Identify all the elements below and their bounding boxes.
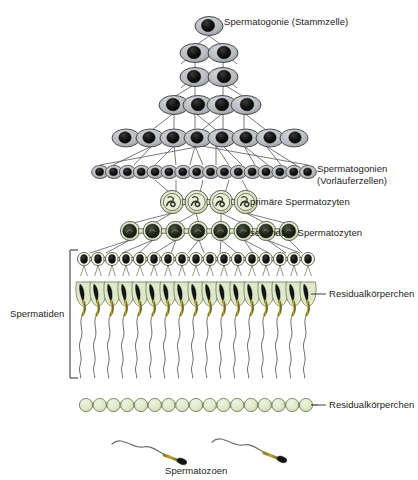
cell-nucleus — [236, 224, 250, 238]
spermatozoa-row — [112, 439, 288, 466]
spermatid-midpiece — [167, 301, 169, 315]
spermatogenesis-diagram: Spermatogonie (Stammzelle) Spermatogonie… — [0, 0, 418, 480]
cell-nucleus — [179, 168, 187, 176]
spermatid-tail — [107, 315, 110, 378]
spermatid-tail — [135, 315, 138, 378]
cell-spermatogonium — [208, 68, 238, 87]
spermatid-midpiece — [83, 301, 85, 315]
cytoplasmic-stalk — [294, 266, 298, 276]
spermatid-tail — [275, 315, 278, 378]
cell-nucleus — [137, 255, 144, 264]
cytoplasmic-stalk — [196, 266, 200, 276]
label-primary-spermatocytes: primäre Spermatozyten — [250, 196, 350, 208]
spermatiden-bracket — [70, 250, 78, 378]
spermatozoon-midpiece — [264, 453, 278, 459]
cell-nucleus — [168, 224, 182, 238]
cell-nucleus — [234, 168, 242, 176]
label-secondary-spermatocytes: sekundäre Spermatozyten — [250, 227, 362, 239]
residual-body — [231, 398, 244, 411]
residual-body — [286, 398, 299, 411]
spermatid-midpiece — [279, 301, 281, 315]
residual-body — [107, 398, 120, 411]
spermatid-midpiece — [111, 301, 113, 315]
label-residual-bodies-lower: Residualkörperchen — [329, 399, 414, 411]
cytoplasmic-stalk — [179, 266, 183, 276]
cell-nucleus — [96, 168, 104, 176]
cell-nucleus — [151, 168, 159, 176]
cytoplasmic-stalk — [98, 266, 102, 276]
cytoplasmic-stalk — [84, 266, 88, 276]
spermatid-tail — [233, 315, 236, 378]
spermatid-tail — [177, 315, 180, 378]
residual-body — [93, 398, 106, 411]
round-spermatid-row — [77, 252, 314, 265]
residual-body — [217, 398, 230, 411]
cytoplasmic-stalk — [151, 266, 155, 276]
residual-body — [244, 398, 257, 411]
cytoplasmic-stalk — [168, 266, 172, 276]
cell-nucleus — [81, 255, 88, 264]
cell-nucleus — [151, 255, 158, 264]
cytoplasmic-stalk — [235, 266, 239, 276]
cytoplasmic-stalk — [210, 266, 214, 276]
cytoplasmic-stalk — [137, 266, 141, 276]
spermatid-tail — [191, 315, 194, 378]
cell-nucleus — [214, 224, 228, 238]
cell-nucleus — [109, 168, 117, 176]
cell-nucleus — [179, 255, 186, 264]
residual-body — [134, 398, 147, 411]
spermatozoon-tail — [212, 439, 270, 455]
cell-nucleus — [304, 168, 312, 176]
cytoplasmic-stalk — [280, 266, 284, 276]
spermatid-tail — [261, 315, 264, 378]
residual-body — [189, 398, 202, 411]
cell-nucleus — [191, 224, 205, 238]
cell-nucleus — [193, 255, 200, 264]
cytoplasmic-stalk — [95, 266, 99, 276]
cell-nucleus — [220, 168, 228, 176]
cytoplasmic-stalk — [249, 266, 253, 276]
cell-nucleus — [248, 168, 256, 176]
spermatozoon-midpiece — [164, 455, 178, 461]
label-precursor-cells: Spermatogonien (Vorläuferzellen) — [317, 163, 387, 186]
spermatid-midpiece — [237, 301, 239, 315]
cytoplasmic-stalk — [109, 266, 113, 276]
spermatid-tail — [205, 315, 208, 378]
residual-body — [162, 398, 175, 411]
residual-body — [79, 398, 92, 411]
spermatid-midpiece — [181, 301, 183, 315]
spermatid-tail — [163, 315, 166, 378]
spermatid-midpiece — [97, 301, 99, 315]
cell-spermatogonium — [231, 96, 261, 115]
cytoplasmic-stalk — [221, 266, 225, 276]
label-stem-cell: Spermatogonie (Stammzelle) — [224, 16, 348, 28]
residual-body — [258, 398, 271, 411]
cytoplasmic-stalk — [263, 266, 267, 276]
cytoplasmic-stalk — [154, 266, 158, 276]
residual-body — [203, 398, 216, 411]
cell-nucleus — [249, 255, 256, 264]
cytoplasmic-stalk — [81, 266, 85, 276]
spermatid-tail — [79, 315, 82, 378]
spermatid-tail — [121, 315, 124, 378]
label-residual-bodies-upper: Residualkörperchen — [329, 288, 414, 300]
cell-nucleus — [263, 255, 270, 264]
cell-nucleus — [165, 255, 172, 264]
spermatid-tail — [149, 315, 152, 378]
cell-nucleus — [123, 168, 131, 176]
cell-nucleus — [137, 168, 145, 176]
cytoplasmic-stalk — [182, 266, 186, 276]
cytoplasmic-stalk — [238, 266, 242, 276]
cytoplasmic-stalk — [140, 266, 144, 276]
label-spermatids: Spermatiden — [10, 308, 64, 320]
cell-nucleus — [207, 255, 214, 264]
cytoplasmic-stalk — [266, 266, 270, 276]
cell-nucleus — [145, 224, 159, 238]
spermatid-tail — [93, 315, 96, 378]
cytoplasmic-stalk — [308, 266, 312, 276]
residual-body — [121, 398, 134, 411]
cell-spermatogonium — [180, 68, 210, 87]
cell-nucleus — [206, 168, 214, 176]
cytoplasmic-stalk — [291, 266, 295, 276]
cell-nucleus — [276, 168, 284, 176]
